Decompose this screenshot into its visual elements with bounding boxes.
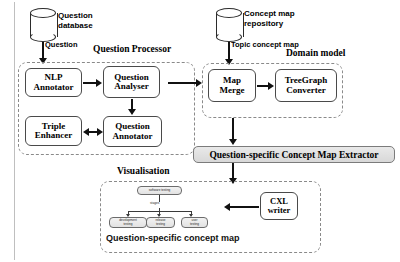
merge-to-converter-arrowhead-icon: [268, 82, 274, 90]
concept-map-root-node[interactable]: software testing: [137, 186, 182, 195]
module-nlp-annotator[interactable]: NLP Annotator: [25, 68, 82, 97]
question-database-cylinder-icon: [30, 8, 56, 42]
question-database-label-line1: Question: [58, 12, 93, 21]
processor-to-domain-line: [168, 82, 198, 84]
concept-map-caption: Question-specific concept map: [106, 233, 240, 243]
module-question-annotator[interactable]: Question Annotator: [103, 116, 162, 147]
question-database-label-line2: database: [58, 22, 93, 31]
module-nlp-annotator-line2: Annotator: [34, 82, 74, 92]
concept-map-leaf-node[interactable]: user testing: [181, 217, 208, 228]
concept-map-leaf-2-line2: testing: [190, 222, 199, 226]
module-triple-enhancer-line2: Enhancer: [35, 130, 73, 140]
extractor-bar-label: Question-specific Concept Map Extractor: [209, 150, 378, 160]
cxl-to-conceptmap-arrowhead-icon: [224, 203, 230, 211]
concept-map-repository-label-line1: Concept map: [244, 10, 295, 19]
module-question-annotator-line2: Annotator: [113, 131, 153, 141]
concept-map-leaf-node[interactable]: development testing: [109, 217, 147, 228]
module-treegraph-converter-line2: Converter: [286, 85, 325, 95]
nlp-to-analyser-arrowhead-icon: [96, 79, 102, 87]
domain-to-extractor-line: [232, 118, 234, 140]
triple-annotator-arrowhead-left-icon: [83, 128, 89, 136]
group-caption-domain-model: Domain model: [286, 48, 345, 58]
group-caption-visualisation: Visualisation: [117, 166, 169, 176]
figure-left-border: [14, 2, 15, 260]
concept-map-root-label: software testing: [149, 189, 171, 193]
concept-map-leaf-0-line2: testing: [123, 222, 132, 226]
triple-annotator-arrowhead-right-icon: [97, 128, 103, 136]
module-question-analyser-line2: Analyser: [114, 81, 149, 91]
module-question-analyser[interactable]: Question Analyser: [103, 66, 160, 98]
module-map-merge[interactable]: Map Merge: [208, 69, 256, 102]
module-treegraph-converter[interactable]: TreeGraph Converter: [275, 69, 337, 102]
module-cxl-writer-line2: writer: [268, 205, 291, 215]
concept-map-repository-label-line2: repository: [244, 20, 283, 29]
cxl-to-conceptmap-line: [230, 206, 259, 208]
module-triple-enhancer[interactable]: Triple Enhancer: [25, 116, 82, 146]
edge-label-question: Question: [45, 41, 78, 49]
module-cxl-writer[interactable]: CXL writer: [260, 192, 298, 220]
domain-to-extractor-arrowhead-icon: [229, 139, 237, 145]
module-map-merge-line2: Merge: [220, 85, 245, 95]
question-specific-concept-map-extractor-bar[interactable]: Question-specific Concept Map Extractor: [193, 146, 395, 163]
concept-map-leaf-node[interactable]: release testing: [146, 217, 175, 228]
concept-map-repository-cylinder-icon: [216, 8, 242, 42]
diagram-canvas: Question database Question Concept map r…: [0, 0, 400, 262]
concept-map-relation-label: stages: [150, 201, 159, 205]
analyser-to-annotator-arrowhead-icon: [128, 109, 136, 115]
concept-map-leaf-1-line2: testing: [156, 222, 165, 226]
group-caption-question-processor: Question Processor: [93, 44, 171, 54]
nlp-to-analyser-line: [83, 82, 97, 84]
